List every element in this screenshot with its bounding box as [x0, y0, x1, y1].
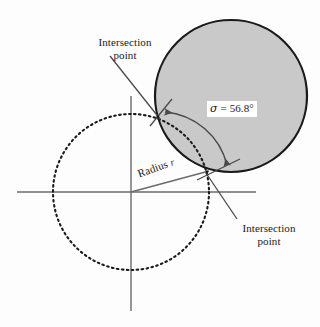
intersection-point-label-top: Intersection point [69, 36, 181, 62]
intersection-point-lower-marker [206, 171, 209, 174]
angle-equals: = [218, 102, 230, 114]
intersection-point-label-bottom: Intersection point [218, 222, 320, 248]
leader-line-upper [110, 56, 160, 119]
intersection-point-label-top-line2: point [69, 49, 181, 62]
intersection-point-upper-marker [157, 116, 160, 119]
angle-value: 56.8° [230, 102, 254, 114]
leader-line-lower [206, 173, 237, 219]
intersection-point-label-bottom-line1: Intersection [218, 222, 320, 235]
angle-symbol: σ [210, 102, 218, 115]
geometry-figure: Intersection point Intersection point σ … [0, 0, 320, 327]
intersection-point-label-top-line1: Intersection [69, 36, 181, 49]
angle-label: σ = 56.8° [207, 101, 257, 117]
intersection-point-label-bottom-line2: point [218, 235, 320, 248]
